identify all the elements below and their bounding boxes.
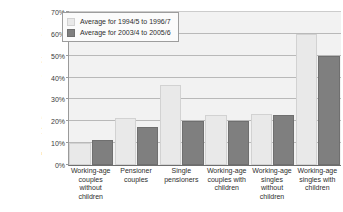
y-axis-tick-label: 40% (51, 74, 65, 81)
bar (137, 127, 158, 165)
bar (205, 115, 226, 165)
x-axis-category-label: Pensioner couples (113, 167, 158, 184)
bar (182, 121, 203, 165)
x-axis-category-label: Working-age couples without children (68, 167, 113, 201)
bar-chart: For each family type, proportion of the … (0, 0, 343, 212)
legend-swatch-icon (67, 18, 75, 26)
x-axis-category-label: Single pensioners (159, 167, 204, 184)
y-axis-tick-label: 30% (51, 96, 65, 103)
bar (296, 34, 317, 165)
x-axis-category-label: Working-age singles without children (249, 167, 294, 201)
bar (115, 118, 136, 165)
x-axis-category-label: Working-age couples with children (204, 167, 249, 193)
y-axis-tick-label: 20% (51, 118, 65, 125)
y-axis-tick-label: 50% (51, 52, 65, 59)
bar (69, 143, 90, 165)
bar (160, 85, 181, 165)
x-axis-category-labels: Working-age couples without childrenPens… (68, 167, 340, 212)
y-axis-label: For each family type, proportion of the … (0, 0, 42, 170)
y-axis-tick-label: 0% (55, 162, 65, 169)
y-axis-tick-label: 10% (51, 140, 65, 147)
x-axis-category-label: Working-age singles with children (295, 167, 340, 193)
bar (318, 56, 339, 165)
bar (92, 140, 113, 165)
bar-group (296, 12, 341, 165)
legend-entry-label: Average for 1994/5 to 1996/7 (80, 18, 171, 25)
bar (273, 115, 294, 165)
legend-entry: Average for 2003/4 to 2005/6 (67, 27, 171, 38)
bar (228, 121, 249, 165)
bar (251, 114, 272, 165)
bar-group (205, 12, 250, 165)
bar-group (250, 12, 295, 165)
legend-entry-label: Average for 2003/4 to 2005/6 (80, 29, 171, 36)
legend-swatch-icon (67, 29, 75, 37)
chart-legend: Average for 1994/5 to 1996/7 Average for… (62, 12, 179, 42)
legend-entry: Average for 1994/5 to 1996/7 (67, 16, 171, 27)
